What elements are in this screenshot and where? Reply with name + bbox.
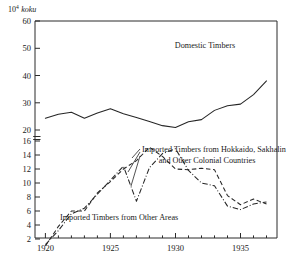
plot-frame xyxy=(35,21,277,238)
y-tick-label-6: 6 xyxy=(27,206,31,216)
y-axis-lower-ticks: 16 14 12 10 8 6 4 2 xyxy=(23,136,41,244)
y-tick-label-14: 14 xyxy=(23,150,32,160)
y-tick-label-50: 50 xyxy=(23,43,32,53)
y-tick-label-30: 30 xyxy=(23,98,32,108)
y-tick-label-60: 60 xyxy=(23,16,32,26)
annotation-imported-other-areas: Imported Timbers from Other Areas xyxy=(60,213,178,222)
series-line-domestic-timbers xyxy=(45,81,266,128)
x-tick-label-1930: 1930 xyxy=(167,243,184,253)
y-axis-upper-ticks: 60 50 40 30 20 xyxy=(23,16,41,135)
x-tick-label-1925: 1925 xyxy=(102,243,119,253)
x-tick-label-1935: 1935 xyxy=(232,243,249,253)
annotation-leader-lines xyxy=(128,149,140,186)
y-tick-label-40: 40 xyxy=(23,71,32,81)
x-axis-ticks: 1920 1925 1930 1935 xyxy=(37,233,267,253)
unit-exponent: 4 xyxy=(16,4,19,10)
y-axis-unit-label: 104koku xyxy=(8,4,36,14)
y-tick-label-4: 4 xyxy=(27,220,32,230)
timber-supply-line-chart: 104koku 60 50 40 30 20 16 14 xyxy=(0,0,293,269)
y-tick-label-2: 2 xyxy=(27,234,31,244)
unit-base: 10 xyxy=(8,5,16,14)
chart-canvas: 104koku 60 50 40 30 20 16 14 xyxy=(0,0,293,269)
unit-name: koku xyxy=(21,5,36,14)
y-tick-label-12: 12 xyxy=(23,164,32,174)
annotation-imported-colonial-line1: Imported Timbers from Hokkaido, Sakhalin xyxy=(142,145,286,154)
annotation-imported-colonial: Imported Timbers from Hokkaido, Sakhalin… xyxy=(142,145,286,165)
annotation-domestic-timbers: Domestic Timbers xyxy=(175,41,235,50)
y-axis-break-marker xyxy=(33,137,40,140)
y-tick-label-10: 10 xyxy=(23,178,32,188)
y-tick-label-8: 8 xyxy=(27,192,31,202)
annotation-imported-colonial-line2: and Other Colonial Countries xyxy=(159,156,256,165)
y-tick-label-20: 20 xyxy=(23,125,32,135)
y-tick-label-16: 16 xyxy=(23,136,32,146)
